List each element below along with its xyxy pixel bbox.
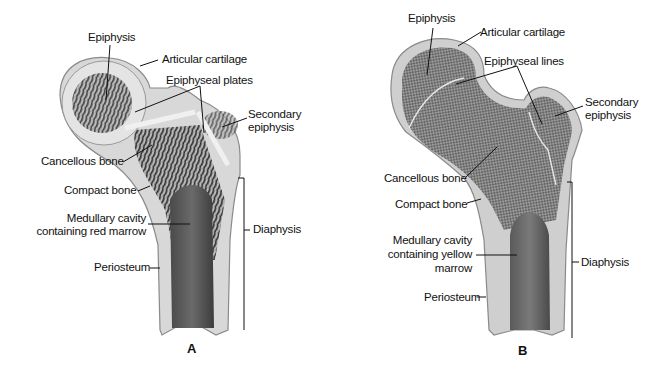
label-diaphysis: Diaphysis (253, 223, 301, 236)
label-epiphysis: Epiphysis (408, 12, 455, 25)
label-periosteum: Periosteum (424, 291, 480, 304)
label-secondary-epiphysis-line1: Secondary (248, 108, 301, 121)
label-compact-bone: Compact bone (64, 184, 136, 197)
label-medullary-cavity-line1: Medullary cavity (30, 212, 146, 225)
label-articular-cartilage: Articular cartilage (480, 26, 565, 39)
label-epiphysis: Epiphysis (88, 31, 135, 44)
label-secondary-epiphysis-line2: epiphysis (585, 109, 631, 122)
panel-letter-a: A (187, 341, 196, 356)
label-medullary-cavity-line1: Medullary cavity (354, 234, 472, 247)
label-periosteum: Periosteum (94, 261, 150, 274)
label-medullary-cavity-line2: containing yellow (354, 248, 472, 261)
label-epiphyseal-lines: Epiphyseal lines (484, 55, 564, 68)
label-diaphysis: Diaphysis (581, 256, 629, 269)
label-compact-bone: Compact bone (395, 198, 467, 211)
label-cancellous-bone: Cancellous bone (41, 155, 124, 168)
label-epiphyseal-plates: Epiphyseal plates (166, 74, 253, 87)
label-medullary-cavity-line3: marrow (354, 262, 472, 275)
panel-letter-b: B (518, 343, 527, 358)
label-medullary-cavity-line2: containing red marrow (10, 225, 146, 238)
panel-b-adult-bone: Epiphysis Articular cartilage Epiphyseal… (334, 0, 668, 374)
label-secondary-epiphysis-line1: Secondary (585, 96, 638, 109)
panel-a-young-bone: Epiphysis Articular cartilage Epiphyseal… (0, 0, 334, 374)
label-secondary-epiphysis-line2: epiphysis (248, 121, 294, 134)
label-articular-cartilage: Articular cartilage (162, 53, 247, 66)
label-cancellous-bone: Cancellous bone (384, 172, 467, 185)
